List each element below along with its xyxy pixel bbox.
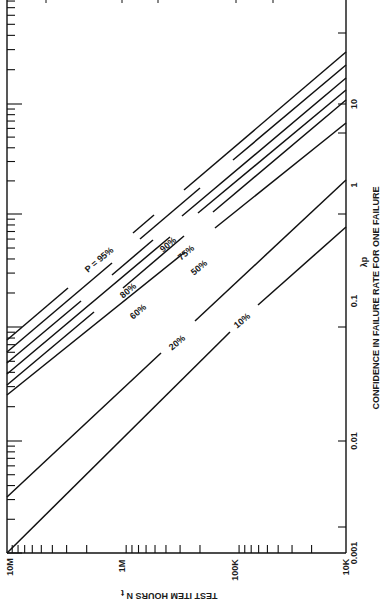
top-edge-ticks [46, 0, 273, 3]
label-20: 20% [167, 333, 187, 352]
right-axis-ticks [338, 33, 346, 527]
bottom-axis-labels: 10M 1M 100K 10K [5, 558, 351, 581]
y-tick-0.1: 0.1 [349, 295, 359, 308]
y-tick-1: 1 [349, 182, 359, 187]
left-axis-ticks [7, 1, 22, 553]
series-95 [7, 52, 346, 340]
bottom-axis-title: TEST ITEM HOURS N [126, 591, 217, 601]
label-90: 90% [158, 235, 178, 254]
x-tick-10M: 10M [5, 558, 15, 576]
series-80 [7, 78, 346, 363]
bottom-axis-ticks [12, 545, 311, 553]
label-50: 50% [189, 258, 209, 277]
label-10: 10% [232, 311, 252, 330]
bottom-axis-title-subscript: t [121, 588, 124, 598]
x-tick-100K: 100K [230, 559, 240, 581]
label-75: 75% [176, 243, 196, 262]
y-tick-0.01: 0.01 [349, 432, 359, 450]
series-75 [7, 90, 346, 374]
x-tick-1M: 1M [117, 560, 127, 573]
label-95: P = 95% [83, 245, 116, 275]
confidence-chart: 0.001 0.01 0.1 1 10 λp CONFIDENCE IN FAI… [0, 0, 387, 602]
right-axis-title: CONFIDENCE IN FAILURE RATE FOR ONE FAILU… [371, 187, 381, 410]
label-60: 60% [128, 302, 148, 321]
lambda-symbol: λp [359, 256, 369, 267]
series-lines [7, 52, 346, 553]
series-50 [7, 123, 346, 395]
y-tick-10: 10 [349, 99, 359, 109]
series-10 [7, 227, 346, 553]
bottom-axis-title-group: TEST ITEM HOURS N t [121, 588, 218, 601]
x-tick-10K: 10K [341, 558, 351, 575]
plot-frame [7, 0, 346, 553]
series-90 [7, 65, 346, 352]
right-axis-labels: 0.001 0.01 0.1 1 10 [349, 99, 359, 564]
